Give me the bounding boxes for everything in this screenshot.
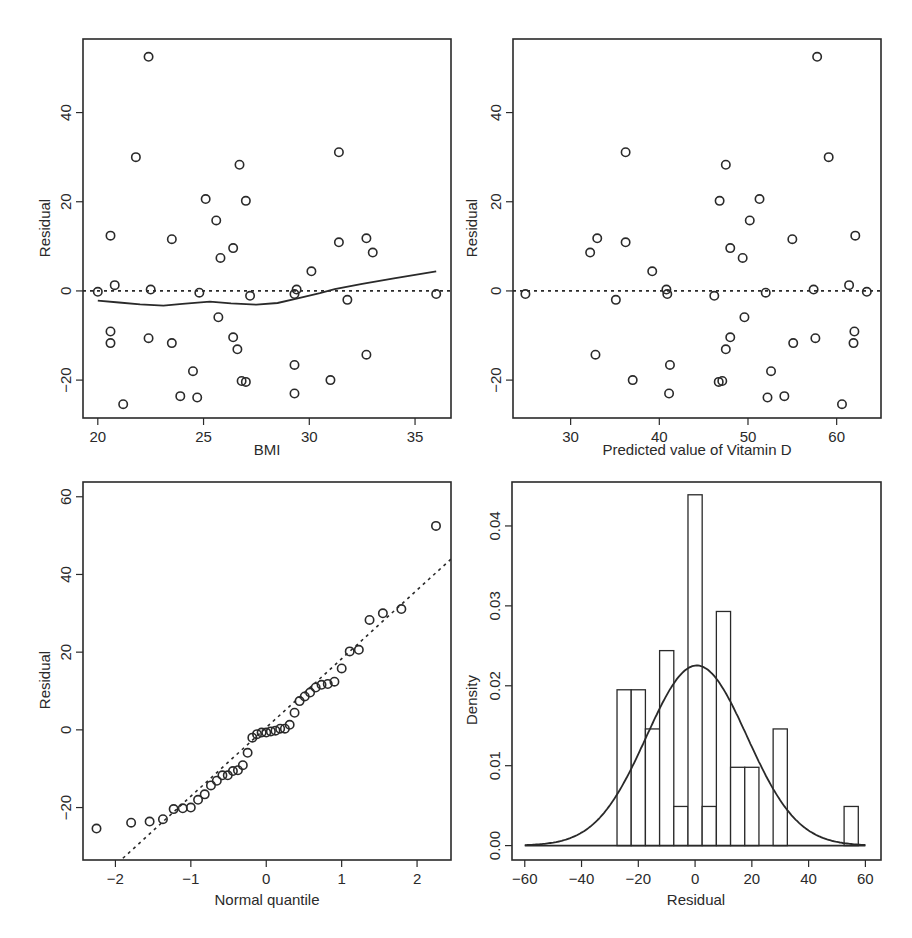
data-point xyxy=(621,238,629,246)
data-point xyxy=(106,339,114,347)
plot-frame xyxy=(83,39,451,418)
histogram-bar xyxy=(773,729,787,846)
data-point xyxy=(290,709,298,717)
data-point xyxy=(243,749,251,757)
data-point xyxy=(242,197,250,205)
y-axis-label: Residual xyxy=(36,199,53,257)
data-point xyxy=(307,267,315,275)
data-point xyxy=(106,327,114,335)
x-tick-label: 25 xyxy=(195,428,212,445)
data-point xyxy=(715,197,723,205)
data-point xyxy=(127,819,135,827)
data-point xyxy=(145,817,153,825)
y-axis-label: Density xyxy=(463,674,480,725)
data-point xyxy=(762,289,770,297)
y-tick-label: −20 xyxy=(57,795,74,820)
data-point xyxy=(212,216,220,224)
x-axis: −60−40−200204060 xyxy=(512,860,874,887)
plot-area xyxy=(513,53,881,409)
data-point xyxy=(586,248,594,256)
data-point xyxy=(851,231,859,239)
data-point xyxy=(710,292,718,300)
histogram-bar xyxy=(844,806,858,845)
y-tick-label: 20 xyxy=(487,193,504,210)
y-axis: 0.000.010.020.030.04 xyxy=(486,511,512,860)
data-point xyxy=(648,267,656,275)
data-point xyxy=(346,647,354,655)
data-point xyxy=(233,345,241,353)
x-tick-label: 1 xyxy=(337,870,345,887)
x-axis-label: BMI xyxy=(254,441,281,458)
histogram-bar xyxy=(745,767,759,845)
data-point xyxy=(738,254,746,262)
data-point xyxy=(144,334,152,342)
data-point xyxy=(746,216,754,224)
y-axis: −2002040 xyxy=(57,104,83,393)
data-point xyxy=(201,790,209,798)
normal-qq-plot-panel: Normal quantile Residual −2−1012−2002040… xyxy=(36,482,489,929)
data-point xyxy=(813,53,821,61)
data-point xyxy=(195,289,203,297)
x-tick-label: −40 xyxy=(569,870,594,887)
data-point xyxy=(246,292,254,300)
data-point xyxy=(335,148,343,156)
data-point xyxy=(755,195,763,203)
plot-frame xyxy=(83,482,451,860)
x-tick-label: 35 xyxy=(407,428,424,445)
y-tick-label: −20 xyxy=(57,367,74,392)
data-point xyxy=(193,393,201,401)
y-axis: −2002040 xyxy=(487,104,513,393)
x-tick-label: 20 xyxy=(89,428,106,445)
data-point xyxy=(365,616,373,624)
data-point xyxy=(811,334,819,342)
y-tick-label: 20 xyxy=(57,644,74,661)
data-point xyxy=(335,238,343,246)
y-axis-label: Residual xyxy=(36,651,53,709)
data-point xyxy=(521,290,529,298)
data-point xyxy=(216,254,224,262)
data-point xyxy=(763,393,771,401)
bmi-residual-scatter-panel: BMI Residual 20253035−2002040 xyxy=(36,39,451,458)
x-tick-label: 40 xyxy=(800,870,817,887)
data-point xyxy=(612,296,620,304)
x-tick-label: 60 xyxy=(857,870,874,887)
qq-reference-line xyxy=(45,525,488,929)
x-tick-label: −60 xyxy=(512,870,537,887)
y-tick-label: 40 xyxy=(487,104,504,121)
data-point xyxy=(187,803,195,811)
predicted-residual-scatter-panel: Predicted value of Vitamin D Residual 30… xyxy=(463,39,881,458)
data-point xyxy=(789,339,797,347)
data-point xyxy=(290,361,298,369)
data-point xyxy=(189,367,197,375)
data-point xyxy=(239,761,247,769)
data-point xyxy=(337,664,345,672)
y-tick-label: −20 xyxy=(487,367,504,392)
data-point xyxy=(767,367,775,375)
data-point xyxy=(379,609,387,617)
y-tick-label: 0.00 xyxy=(486,831,503,860)
data-point xyxy=(780,392,788,400)
data-point xyxy=(229,333,237,341)
data-point xyxy=(432,522,440,530)
data-point xyxy=(362,234,370,242)
histogram-bar xyxy=(617,690,631,846)
x-tick-label: 2 xyxy=(413,870,421,887)
y-tick-label: 0 xyxy=(57,726,74,734)
data-point xyxy=(355,646,363,654)
histogram-bars xyxy=(617,495,858,846)
data-point xyxy=(432,290,440,298)
data-point xyxy=(369,248,377,256)
data-point xyxy=(593,234,601,242)
data-point xyxy=(863,288,871,296)
x-tick-label: 30 xyxy=(562,428,579,445)
data-point xyxy=(362,350,370,358)
x-axis-label: Normal quantile xyxy=(214,891,319,908)
data-point xyxy=(809,285,817,293)
data-point xyxy=(824,153,832,161)
data-point xyxy=(591,350,599,358)
x-tick-label: 0 xyxy=(691,870,699,887)
data-point xyxy=(343,296,351,304)
x-tick-label: 20 xyxy=(744,870,761,887)
data-point xyxy=(629,376,637,384)
histogram-bar xyxy=(716,611,730,845)
